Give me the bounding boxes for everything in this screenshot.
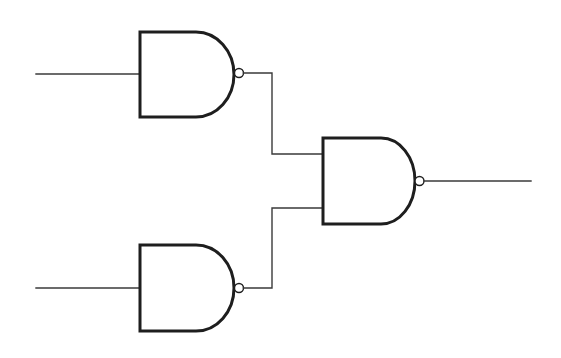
nand-gate-output — [323, 138, 424, 224]
nand-bottom-inversion-bubble — [235, 284, 244, 293]
nand-top-body — [140, 32, 234, 117]
bottom-gate-to-output-gate-wire — [244, 208, 324, 288]
nand-top-inversion-bubble — [235, 69, 244, 78]
logic-circuit-diagram — [0, 0, 561, 358]
top-gate-to-output-gate-wire — [244, 73, 324, 154]
nand-gate-top — [140, 32, 244, 117]
nand-bottom-body — [140, 245, 234, 331]
nand-output-inversion-bubble — [415, 177, 424, 186]
nand-gate-bottom — [140, 245, 244, 331]
nand-output-body — [323, 138, 415, 224]
